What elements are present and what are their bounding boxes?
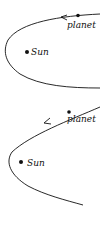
top-orbit-figure: planet Sun (5, 14, 100, 88)
top-planet-dot (76, 14, 80, 18)
top-sun-dot (25, 50, 29, 54)
bottom-sun-dot (19, 160, 23, 164)
bottom-orbit-figure: planet Sun (9, 107, 100, 205)
top-sun-label: Sun (31, 47, 49, 57)
orbit-diagram: planet Sun planet Sun (0, 0, 108, 230)
bottom-sun-label: Sun (27, 158, 45, 168)
top-planet-label: planet (67, 20, 96, 30)
bottom-planet-label: planet (67, 114, 96, 124)
bottom-direction-arrow-icon (44, 118, 51, 124)
